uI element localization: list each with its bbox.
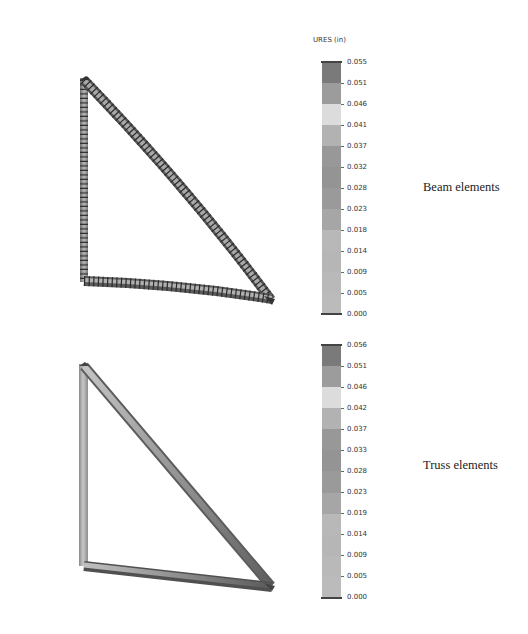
- beam-diagonal-member: [84, 80, 271, 300]
- legend-label: 0.000: [347, 310, 367, 318]
- legend-label: 0.051: [347, 79, 367, 87]
- beam-bottom-member: [84, 280, 272, 299]
- legend-label: 0.033: [347, 446, 367, 454]
- legend-tick: [341, 83, 344, 84]
- legend-band: [322, 387, 341, 408]
- legend-label: 0.032: [347, 163, 367, 171]
- legend-label: 0.055: [347, 58, 367, 66]
- legend-label: 0.028: [347, 467, 367, 475]
- legend-tick: [341, 576, 344, 577]
- truss-bottom-member: [84, 565, 272, 587]
- truss-vertical-member: [79, 364, 88, 566]
- legend-label: 0.041: [347, 121, 367, 129]
- truss-diagonal-member: [84, 366, 271, 586]
- truss-frame-model: [0, 322, 300, 634]
- legend-tick: [341, 125, 344, 126]
- legend-band: [322, 146, 341, 167]
- legend-band: [322, 577, 341, 598]
- legend-band: [322, 230, 341, 251]
- legend-top-edge: [321, 61, 342, 63]
- legend-band: [322, 514, 341, 535]
- legend-label: 0.005: [347, 289, 367, 297]
- legend-tick: [341, 492, 344, 493]
- legend-label: 0.019: [347, 509, 367, 517]
- legend-top-edge: [321, 344, 342, 346]
- beam-frame-model: [0, 0, 300, 322]
- legend-label: 0.009: [347, 268, 367, 276]
- legend-tick: [341, 555, 344, 556]
- legend-tick: [341, 188, 344, 189]
- legend-band: [322, 366, 341, 387]
- legend-label: 0.005: [347, 572, 367, 580]
- beam-legend-colorbar: [322, 62, 341, 314]
- legend-label: 0.023: [347, 488, 367, 496]
- legend-label: 0.014: [347, 247, 367, 255]
- legend-tick: [341, 293, 344, 294]
- legend-unit-title: URES (in): [313, 36, 346, 44]
- legend-tick: [341, 146, 344, 147]
- legend-label: 0.037: [347, 425, 367, 433]
- legend-band: [322, 104, 341, 125]
- legend-tick: [341, 251, 344, 252]
- legend-label: 0.051: [347, 362, 367, 370]
- legend-band: [322, 429, 341, 450]
- legend-tick: [341, 513, 344, 514]
- legend-tick: [341, 104, 344, 105]
- legend-bottom-edge: [321, 597, 342, 599]
- truss-legend-colorbar: [322, 345, 341, 598]
- truss-elements-caption: Truss elements: [423, 458, 498, 473]
- legend-tick: [341, 167, 344, 168]
- legend-label: 0.009: [347, 551, 367, 559]
- legend-tick: [341, 429, 344, 430]
- legend-bottom-edge: [321, 313, 342, 315]
- legend-label: 0.046: [347, 383, 367, 391]
- legend-tick: [341, 230, 344, 231]
- beam-elements-panel: URES (in) 0.055 0.051 0.046 0.041 0.037 …: [0, 0, 528, 322]
- legend-tick: [341, 272, 344, 273]
- legend-tick: [341, 209, 344, 210]
- legend-band: [322, 167, 341, 188]
- legend-band: [322, 345, 341, 366]
- legend-band: [322, 535, 341, 556]
- legend-label: 0.018: [347, 226, 367, 234]
- legend-tick: [341, 366, 344, 367]
- legend-tick: [341, 534, 344, 535]
- legend-label: 0.000: [347, 593, 367, 601]
- legend-band: [322, 251, 341, 272]
- legend-band: [322, 471, 341, 492]
- legend-band: [322, 125, 341, 146]
- legend-label: 0.056: [347, 341, 367, 349]
- legend-label: 0.028: [347, 184, 367, 192]
- legend-band: [322, 408, 341, 429]
- legend-tick: [341, 408, 344, 409]
- beam-vertical-member: [80, 78, 88, 282]
- legend-band: [322, 556, 341, 577]
- legend-tick: [341, 471, 344, 472]
- legend-tick: [341, 387, 344, 388]
- legend-label: 0.014: [347, 530, 367, 538]
- legend-tick: [341, 450, 344, 451]
- legend-band: [322, 62, 341, 83]
- legend-band: [322, 188, 341, 209]
- beam-elements-caption: Beam elements: [423, 180, 500, 195]
- legend-band: [322, 450, 341, 471]
- truss-elements-panel: 0.056 0.051 0.046 0.042 0.037 0.033 0.02…: [0, 322, 528, 634]
- legend-band: [322, 209, 341, 230]
- legend-label: 0.046: [347, 100, 367, 108]
- legend-band: [322, 293, 341, 314]
- legend-label: 0.037: [347, 142, 367, 150]
- legend-label: 0.042: [347, 404, 367, 412]
- legend-band: [322, 493, 341, 514]
- legend-band: [322, 272, 341, 293]
- legend-label: 0.023: [347, 205, 367, 213]
- legend-band: [322, 83, 341, 104]
